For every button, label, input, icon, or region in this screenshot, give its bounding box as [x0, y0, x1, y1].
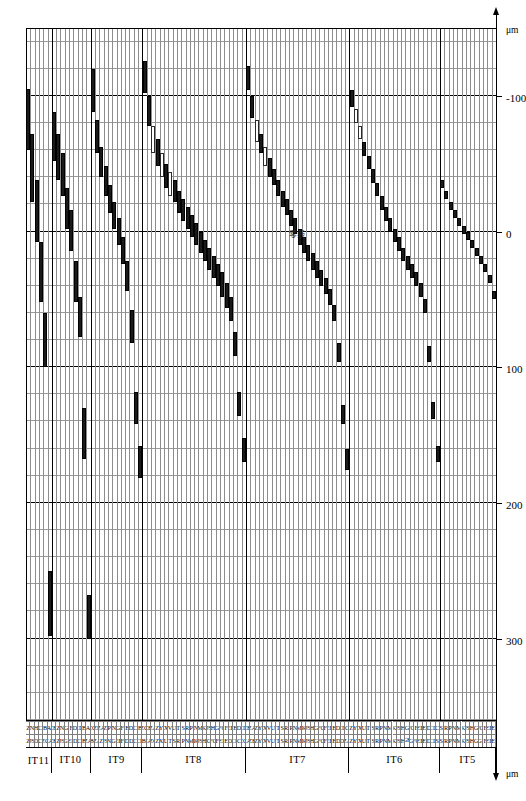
grid-line-row [384, 29, 385, 720]
grid-line-row [332, 29, 333, 720]
deviation-letter-cell: Z [254, 734, 258, 747]
grid-line-row [345, 29, 346, 720]
grid-line-minor-vertical [26, 284, 496, 285]
deviation-letter-cell: Z [155, 721, 159, 734]
deviation-letter-label: M [388, 737, 392, 743]
tolerance-zone-bar [246, 66, 250, 90]
deviation-letter-cell: CD [241, 721, 245, 734]
deviation-letter-cell: S [181, 721, 185, 734]
grid-line-row [375, 29, 376, 720]
deviation-letter-label: N [60, 724, 64, 730]
deviation-letter-label: R [444, 737, 448, 743]
deviation-letter-cell: K [461, 734, 465, 747]
deviation-letter-label: ZB [51, 724, 55, 730]
axis-tick-label: 300 [506, 634, 523, 646]
tolerance-zone-bar [427, 345, 431, 361]
deviation-letter-cell: U [271, 721, 275, 734]
deviation-letter-label: B [43, 724, 47, 730]
tolerance-zone-bar [30, 133, 34, 201]
deviation-letter-label: JS [207, 724, 211, 730]
grid-line-group-divider [91, 29, 92, 720]
deviation-letter-cell: X [163, 721, 167, 734]
deviation-letter-cell: Z [155, 734, 159, 747]
deviation-letter-label: N [107, 737, 111, 743]
grid-line-row [492, 29, 493, 720]
deviation-letter-cell: EF [69, 734, 73, 747]
deviation-letter-label: G [314, 737, 318, 743]
deviation-letter-label: G [405, 724, 409, 730]
deviation-letter-label: CD [241, 724, 245, 730]
deviation-letter-label: R [375, 724, 379, 730]
deviation-letter-label: D [73, 724, 77, 730]
deviation-letter-label: K [461, 737, 465, 743]
deviation-letter-label: ZB [94, 724, 98, 730]
deviation-letter-cell: ZB [146, 721, 150, 734]
deviation-letter-cell: ZB [51, 734, 55, 747]
tolerance-zone-bar [478, 255, 482, 263]
deviation-letter-column-b: ZNHCBAZBZNGFDCDBAZCZBZAZPNGFEDCBZCZBZAZY… [26, 721, 496, 734]
grid-line-row [444, 29, 445, 720]
deviation-letter-cell: Z [99, 734, 103, 747]
tolerance-zone-bar [56, 133, 60, 179]
deviation-letter-cell: Y [159, 721, 163, 734]
deviation-letter-label: G [314, 724, 318, 730]
tolerance-zone-bar [181, 198, 185, 220]
deviation-letter-cell: EF [418, 734, 422, 747]
deviation-letter-label: FG [414, 737, 418, 743]
deviation-letter-cell: JS [103, 734, 107, 747]
deviation-letter-cell: F [483, 734, 487, 747]
deviation-letter-cell: EF [327, 734, 331, 747]
tolerance-zone-bar [349, 90, 353, 106]
deviation-letter-cell: P [189, 721, 193, 734]
deviation-letter-cell: JS [207, 721, 211, 734]
deviation-letter-cell: ZA [250, 721, 254, 734]
deviation-letter-label: N [112, 724, 116, 730]
deviation-letter-cell: FGH [112, 734, 116, 747]
grid-line-row [35, 29, 36, 720]
deviation-letter-cell: V [168, 721, 172, 734]
deviation-letter-label: M [189, 737, 193, 743]
it-grade-label: IT10 [59, 754, 81, 765]
grid-line-row [427, 29, 428, 720]
deviation-letter-cell: T [276, 734, 280, 747]
deviation-letter-label: X [263, 737, 267, 743]
deviation-letter-label: JS [103, 737, 107, 743]
deviation-letter-cell: P [379, 721, 383, 734]
grid-line-row [108, 29, 109, 720]
deviation-letter-label: EF [228, 724, 232, 730]
tolerance-zone-bar [353, 109, 357, 123]
grid-line-row [449, 29, 450, 720]
grid-line-row [147, 29, 148, 720]
deviation-letter-label: ZC [43, 737, 47, 743]
deviation-letter-label: B [82, 724, 86, 730]
tolerance-zone-bar [133, 391, 137, 424]
deviation-letter-cell: S [370, 721, 374, 734]
deviation-letter-label: K [392, 737, 396, 743]
deviation-letter-cell: M [189, 734, 193, 747]
grid-line-row [336, 29, 337, 720]
tolerance-zone-bar [233, 331, 237, 355]
deviation-letter-cell: JS [306, 734, 310, 747]
axis-tick-label: 0 [506, 227, 512, 239]
tolerance-zone-bar [271, 169, 275, 185]
deviation-letter-label: P [379, 724, 382, 730]
deviation-letter-label: H [310, 724, 314, 730]
deviation-letter-cell: E [232, 721, 236, 734]
deviation-letter-cell: E [422, 734, 426, 747]
tolerance-zone-bar [306, 245, 310, 261]
it-grade-label: IT9 [107, 754, 123, 765]
deviation-letter-label: EF [69, 737, 73, 743]
tolerance-zone-bar [366, 155, 370, 169]
deviation-letter-label: FGH [112, 737, 116, 743]
deviation-letter-cell: ZC [241, 734, 245, 747]
deviation-letter-label: E [232, 724, 236, 730]
deviation-letter-label: D [336, 724, 340, 730]
deviation-letter-cell: S [172, 734, 176, 747]
tolerance-zone-bar [284, 198, 288, 214]
grid-line-major-vertical [26, 637, 496, 638]
deviation-letter-cell: F [483, 721, 487, 734]
deviation-letter-cell: ZC [142, 721, 146, 734]
deviation-letter-label: JS [30, 737, 34, 743]
deviation-letter-cell: X [159, 734, 163, 747]
deviation-letter-label: V [267, 737, 271, 743]
